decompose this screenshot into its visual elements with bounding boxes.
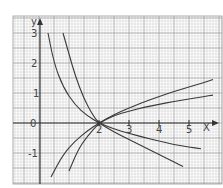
origin-label: 0 — [30, 118, 36, 129]
graph-paper-grid — [13, 16, 222, 184]
y-tick-label-2: 2 — [31, 58, 37, 69]
y-tick-label-1: 1 — [33, 88, 39, 99]
x-axis-arrow-icon — [212, 120, 219, 126]
x-tick-label-4: 4 — [156, 124, 162, 135]
y-tick-label-neg1: -1 — [28, 148, 38, 159]
y-axis-label: y — [31, 16, 37, 27]
axis-labels: y X 0 2 3 4 5 3 2 1 -1 — [28, 16, 210, 159]
x-tick-label-5: 5 — [186, 124, 192, 135]
x-tick-label-2: 2 — [96, 124, 102, 135]
y-tick-label-3: 3 — [31, 28, 37, 39]
chart-figure: y X 0 2 3 4 5 3 2 1 -1 — [0, 0, 223, 188]
x-tick-label-3: 3 — [126, 124, 132, 135]
x-axis-label: X — [203, 122, 210, 133]
